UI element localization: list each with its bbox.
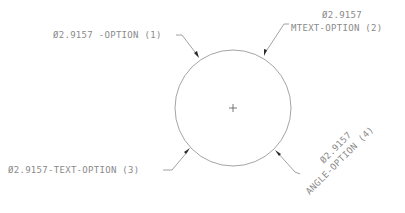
diameter-dimension-2[interactable]: Ø2.9157 MTEXT-OPTION (2) <box>264 10 383 56</box>
diameter-dimension-1[interactable]: Ø2.9157 -OPTION (1) <box>53 30 199 58</box>
diameter-dimension-4[interactable]: Ø2.9157 ANGLE-OPTION (4) <box>275 116 376 196</box>
dimension-1-text: Ø2.9157 -OPTION (1) <box>53 30 162 40</box>
dimension-2-text-line1: Ø2.9157 <box>322 10 362 20</box>
dimension-2-text-line2: MTEXT-OPTION (2) <box>291 23 383 33</box>
dimension-2-leader <box>265 24 289 53</box>
arrowhead-icon <box>184 148 190 154</box>
center-mark-icon <box>229 104 237 112</box>
arrowhead-icon <box>264 49 267 56</box>
dimension-3-text: Ø2.9157-TEXT-OPTION (3) <box>8 165 140 175</box>
diameter-dimension-3[interactable]: Ø2.9157-TEXT-OPTION (3) <box>8 148 190 175</box>
dimension-3-leader <box>163 151 188 170</box>
cad-drawing-canvas: Ø2.9157 -OPTION (1) Ø2.9157 MTEXT-OPTION… <box>0 0 405 213</box>
dimension-4-leader <box>277 152 300 174</box>
